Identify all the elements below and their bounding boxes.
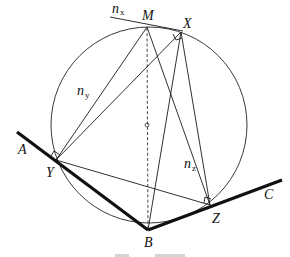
- label-Z: Z: [212, 211, 220, 226]
- label-nz: n: [184, 156, 191, 171]
- geometry-diagram: M X Y Z B A C n x n y n z: [0, 0, 290, 257]
- line-XB: [148, 32, 181, 230]
- label-nz-subscript: z: [192, 163, 196, 173]
- label-nx: n: [112, 1, 119, 16]
- circle-center-mark: [145, 123, 149, 127]
- label-C: C: [264, 187, 274, 202]
- line-XZ: [181, 32, 210, 205]
- label-X: X: [182, 16, 192, 31]
- label-M: M: [141, 8, 155, 23]
- label-Y: Y: [46, 165, 56, 180]
- label-ny: n: [77, 83, 84, 98]
- dashed-line-MB: [147, 28, 148, 229]
- label-A: A: [17, 142, 27, 157]
- line-XY: [56, 32, 181, 160]
- line-MY: [56, 27, 147, 160]
- label-B: B: [144, 235, 153, 250]
- label-ny-subscript: y: [85, 90, 90, 100]
- label-nx-subscript: x: [120, 7, 125, 17]
